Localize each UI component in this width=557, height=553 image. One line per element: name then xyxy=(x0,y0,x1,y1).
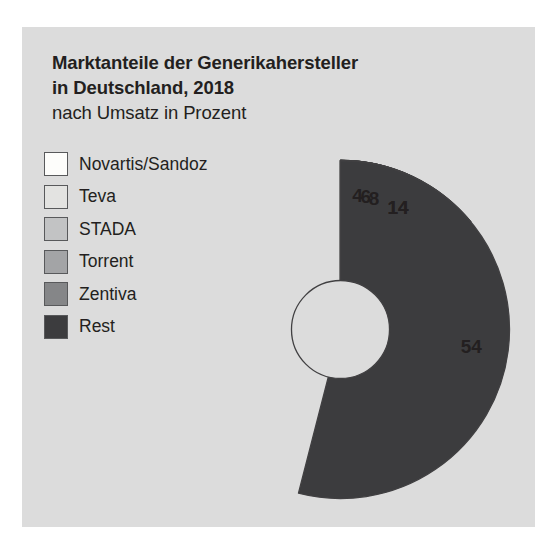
page-title-line-2: in Deutschland, 2018 xyxy=(52,75,492,100)
legend-item-label: Teva xyxy=(79,188,116,206)
legend-item-novartis-sandoz: Novartis/Sandoz xyxy=(44,148,259,181)
legend-swatch-icon xyxy=(44,315,68,339)
legend-swatch-icon xyxy=(44,185,68,209)
infographic-panel: Marktanteile der Generikahersteller in D… xyxy=(22,27,535,527)
legend-item-label: Torrent xyxy=(79,253,133,271)
legend-item-label: Novartis/Sandoz xyxy=(79,156,207,174)
legend-item-stada: STADA xyxy=(44,213,259,246)
donut-slice-value-label: 4 xyxy=(352,185,363,206)
chart-legend: Novartis/Sandoz Teva STADA Torrent Zenti… xyxy=(44,148,259,343)
page-subtitle: nach Umsatz in Prozent xyxy=(52,100,492,126)
legend-item-label: Rest xyxy=(79,318,115,336)
page-title-line-1: Marktanteile der Generikahersteller xyxy=(52,50,492,75)
donut-hole xyxy=(291,280,389,378)
legend-item-teva: Teva xyxy=(44,181,259,214)
legend-swatch-icon xyxy=(44,250,68,274)
legend-swatch-icon xyxy=(44,282,68,306)
legend-swatch-icon xyxy=(44,152,68,176)
donut-slice-value-label: 54 xyxy=(461,336,483,357)
legend-item-zentiva: Zentiva xyxy=(44,278,259,311)
legend-item-label: Zentiva xyxy=(79,286,136,304)
donut-slice-value-label: 14 xyxy=(387,197,409,218)
legend-item-label: STADA xyxy=(79,221,136,239)
legend-swatch-icon xyxy=(44,217,68,241)
legend-item-rest: Rest xyxy=(44,311,259,344)
title-block: Marktanteile der Generikahersteller in D… xyxy=(52,50,492,126)
legend-item-torrent: Torrent xyxy=(44,246,259,279)
